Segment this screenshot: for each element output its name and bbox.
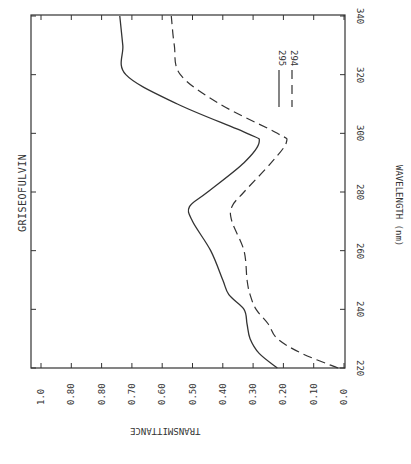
y-axis-label: TRANSMITTANCE bbox=[130, 426, 200, 436]
transmittance-tick-label: 0.80 bbox=[97, 383, 107, 405]
wavelength-tick-label: 280 bbox=[355, 184, 365, 200]
transmittance-tick-label: 0.70 bbox=[127, 383, 137, 405]
transmittance-tick-label: 0.40 bbox=[218, 383, 228, 405]
wavelength-tick-label: 300 bbox=[355, 125, 365, 141]
x-axis-label: WAVELENGTH (nm) bbox=[394, 165, 404, 246]
transmittance-tick-label: 1.0 bbox=[36, 389, 46, 405]
legend-label-294: 294 bbox=[289, 50, 299, 66]
wavelength-tick-label: 240 bbox=[355, 301, 365, 317]
chart-canvas bbox=[0, 0, 411, 464]
legend bbox=[279, 70, 292, 107]
transmittance-tick-label: 0.30 bbox=[248, 383, 258, 405]
legend-label-295: 295 bbox=[277, 50, 287, 66]
transmittance-tick-label: 0.80 bbox=[66, 383, 76, 405]
chart-title: GRISEOFULVIN bbox=[17, 154, 28, 232]
wavelength-tick-label: 320 bbox=[355, 67, 365, 83]
transmittance-tick-label: 0.20 bbox=[278, 383, 288, 405]
transmittance-tick-label: 0.0 bbox=[339, 389, 349, 405]
wavelength-tick-label: 260 bbox=[355, 243, 365, 259]
transmittance-tick-label: 0.60 bbox=[157, 383, 167, 405]
transmittance-tick-label: 0.10 bbox=[309, 383, 319, 405]
transmittance-tick-label: 0.50 bbox=[188, 383, 198, 405]
plot-frame bbox=[31, 15, 345, 368]
transmittance-ticks bbox=[41, 15, 344, 368]
wavelength-tick-label: 340 bbox=[355, 8, 365, 24]
series-294-line bbox=[171, 16, 338, 368]
series-295-line bbox=[120, 16, 278, 368]
wavelength-tick-label: 220 bbox=[355, 360, 365, 376]
wavelength-ticks bbox=[31, 16, 345, 368]
